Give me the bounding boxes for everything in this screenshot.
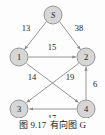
edge-weight-1-4: 14: [28, 72, 37, 82]
figure-caption-title: 有向图 G: [50, 120, 86, 130]
edge-weight-4-2: 6: [93, 79, 97, 89]
node-label-2: 2: [84, 52, 88, 62]
node-1[interactable]: 1: [10, 48, 28, 66]
edge-group: [25, 22, 87, 110]
figure-caption-number: 图 9.17: [19, 120, 46, 130]
node-2[interactable]: 2: [77, 48, 95, 66]
figure-container: 13 38 15 14 19 6 17 S 1 2 3 4: [0, 0, 105, 135]
node-label-3: 3: [17, 104, 21, 114]
node-label-1: 1: [17, 52, 21, 62]
node-4[interactable]: 4: [77, 100, 95, 118]
edge-weight-S-2: 38: [75, 23, 84, 33]
node-3[interactable]: 3: [10, 100, 28, 118]
figure-caption: 图 9.17有向图 G: [0, 118, 105, 131]
edge-weight-1-2: 15: [48, 42, 57, 52]
edge-weight-2-3: 19: [66, 72, 75, 82]
edge-weight-S-1: 13: [22, 23, 31, 33]
directed-graph-diagram: 13 38 15 14 19 6 17 S 1 2 3 4: [0, 0, 105, 118]
node-S[interactable]: S: [44, 6, 62, 24]
